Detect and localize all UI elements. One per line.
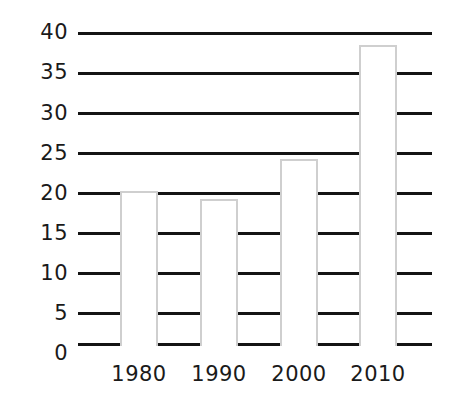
bar-2000 [280,159,318,346]
y-tick-label-5: 5 [10,303,68,324]
gridline-40 [78,32,432,35]
x-tick-label-2000: 2000 [254,362,344,386]
x-tick-label-1990: 1990 [174,362,264,386]
y-tick-label-40: 40 [10,22,68,43]
y-tick-label-0: 0 [10,343,68,364]
x-tick-label-2010: 2010 [333,362,423,386]
plot-area [78,25,432,351]
bar-chart: 40 35 30 25 20 15 10 5 0 1980 1990 2000 … [0,0,454,415]
y-tick-label-30: 30 [10,103,68,124]
y-tick-label-20: 20 [10,183,68,204]
y-axis: 40 35 30 25 20 15 10 5 0 [0,0,68,415]
x-tick-label-1980: 1980 [94,362,184,386]
y-tick-label-25: 25 [10,143,68,164]
y-tick-label-15: 15 [10,223,68,244]
y-tick-label-35: 35 [10,62,68,83]
bar-1980 [120,191,158,346]
y-tick-label-10: 10 [10,263,68,284]
x-axis: 1980 1990 2000 2010 [78,362,432,402]
bar-2010 [359,45,397,346]
bar-1990 [200,199,238,346]
